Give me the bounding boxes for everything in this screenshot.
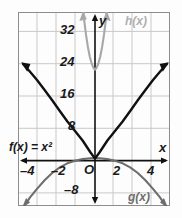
y-tick-8: 8 [68,118,75,133]
y-tick-neg8: –8 [64,182,78,197]
y-tick-16: 16 [60,86,74,101]
x-tick-4: 4 [147,163,154,178]
x-tick-neg4: –4 [20,163,34,178]
f-curve-label: f(x) = x² [9,140,52,154]
y-tick-24: 24 [60,54,74,69]
origin-label: O [84,162,94,177]
graph-figure: 32 24 16 8 –8 –4 –2 2 4 O y x f(x) = x² … [0,0,182,218]
x-tick-2: 2 [113,163,120,178]
x-axis-label: x [159,140,166,155]
x-tick-neg2: –2 [51,163,65,178]
h-curve-label: h(x) [125,14,147,28]
g-curve-label: g(x) [128,190,150,204]
y-tick-32: 32 [60,22,74,37]
y-axis-label: y [99,13,106,28]
